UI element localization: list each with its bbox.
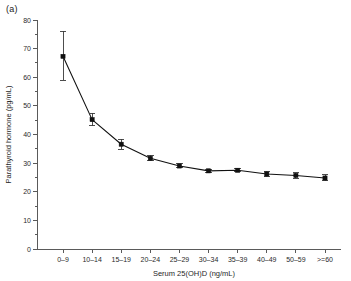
y-tick-label: 40 <box>23 131 31 138</box>
y-tick-label: 20 <box>23 188 31 195</box>
data-point-marker <box>265 172 269 176</box>
data-point-marker <box>236 168 240 172</box>
x-tick-label: >=60 <box>317 256 333 263</box>
figure-panel: (a) 01020304050607080 0–910–1415–1920–24… <box>0 0 351 281</box>
x-tick-label: 25–29 <box>170 256 190 263</box>
data-point-marker <box>61 54 65 58</box>
x-axis: 0–910–1415–1920–2425–2930–3435–3940–4950… <box>37 249 341 263</box>
y-tick-label: 10 <box>23 217 31 224</box>
y-tick-label: 0 <box>27 246 31 253</box>
y-tick-label: 70 <box>23 45 31 52</box>
chart-canvas: 01020304050607080 0–910–1415–1920–2425–2… <box>0 0 351 281</box>
data-point-marker <box>323 176 327 180</box>
x-tick-label: 40–49 <box>257 256 277 263</box>
y-tick-label: 80 <box>23 17 31 24</box>
x-tick-label: 20–24 <box>141 256 161 263</box>
x-tick-label: 0–9 <box>57 256 69 263</box>
data-point-marker <box>206 169 210 173</box>
data-point-marker <box>177 164 181 168</box>
series-polyline <box>63 56 325 178</box>
x-tick-label: 50–59 <box>286 256 306 263</box>
x-axis-title: Serum 25(OH)D (ng/mL) <box>153 269 236 278</box>
y-axis-title: Parathyroid hormone (pg/mL) <box>4 85 13 183</box>
data-point-marker <box>90 118 94 122</box>
x-tick-label: 10–14 <box>82 256 102 263</box>
data-point-marker <box>294 173 298 177</box>
x-tick-label: 30–34 <box>199 256 219 263</box>
y-axis: 01020304050607080 <box>23 17 37 253</box>
y-tick-label: 50 <box>23 102 31 109</box>
data-series-parathyroid-hormone <box>60 31 328 180</box>
x-tick-label: 35–39 <box>228 256 248 263</box>
data-point-marker <box>148 156 152 160</box>
y-tick-label: 60 <box>23 74 31 81</box>
x-tick-label: 15–19 <box>111 256 131 263</box>
data-point-marker <box>119 142 123 146</box>
y-tick-label: 30 <box>23 160 31 167</box>
